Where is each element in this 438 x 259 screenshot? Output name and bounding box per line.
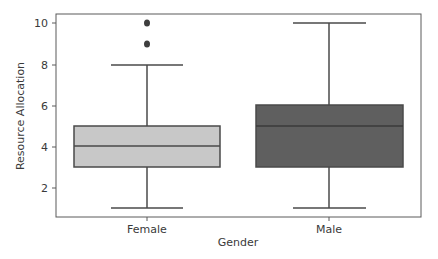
x-tick-label-female: Female (127, 223, 167, 236)
y-tick-label: 8 (41, 59, 48, 72)
y-axis: 2 4 6 8 10 Resource Allocation (14, 17, 56, 195)
x-axis-label: Gender (218, 236, 259, 249)
x-axis: Female Male Gender (127, 217, 342, 249)
x-tick-label-male: Male (316, 223, 342, 236)
outlier-point (144, 41, 150, 48)
outlier-point (144, 20, 150, 27)
y-tick-label: 10 (34, 17, 48, 30)
box-plot-chart: 2 4 6 8 10 Resource Allocation Female Ma… (0, 0, 438, 259)
y-tick-label: 4 (41, 141, 48, 154)
y-axis-label: Resource Allocation (14, 62, 27, 170)
iqr-box (256, 105, 403, 167)
y-tick-label: 6 (41, 100, 48, 113)
y-tick-label: 2 (41, 182, 48, 195)
